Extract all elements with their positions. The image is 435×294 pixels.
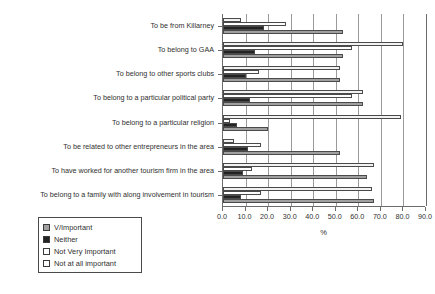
- bar-group: [223, 159, 425, 183]
- category-tick: [218, 50, 222, 51]
- legend-label: Not Very Important: [54, 247, 116, 256]
- category-tick: [218, 26, 222, 27]
- category-label: To belong to a particular religion: [112, 118, 214, 127]
- bar-group: [223, 183, 425, 207]
- legend-item[interactable]: Neither: [43, 233, 137, 245]
- bar-group: [223, 62, 425, 86]
- legend-swatch-not-at-all-important: [43, 260, 50, 267]
- bar: [223, 54, 343, 58]
- x-tick: [402, 207, 403, 211]
- legend-swatch-v-important: [43, 224, 50, 231]
- x-tick: [267, 207, 268, 211]
- bar-group: [223, 135, 425, 159]
- x-tick-label: 90.0: [410, 212, 435, 221]
- bar-group: [223, 111, 425, 135]
- x-axis-title: %: [222, 228, 425, 237]
- bar-chart: To be from KillarneyTo belong to GAATo b…: [0, 0, 435, 294]
- x-tick: [335, 207, 336, 211]
- category-tick: [218, 171, 222, 172]
- category-axis: To be from KillarneyTo belong to GAATo b…: [0, 14, 218, 207]
- legend-swatch-neither: [43, 236, 50, 243]
- legend-label: Not at all important: [54, 259, 116, 268]
- category-tick: [218, 98, 222, 99]
- bar: [223, 199, 374, 203]
- category-label: To be from Killarney: [150, 21, 214, 30]
- category-label: To belong to other sports clubs: [116, 69, 214, 78]
- bar-group: [223, 14, 425, 38]
- category-label: To belong to a particular political part…: [93, 93, 214, 102]
- bar: [223, 102, 363, 106]
- plot-area: [222, 14, 425, 207]
- x-tick: [357, 207, 358, 211]
- legend-item[interactable]: V/Important: [43, 221, 137, 233]
- bar: [223, 127, 268, 131]
- legend-item[interactable]: Not at all important: [43, 257, 137, 269]
- bar: [223, 115, 401, 119]
- category-tick: [218, 147, 222, 148]
- x-tick: [245, 207, 246, 211]
- category-label: To have worked for another tourism firm …: [51, 166, 214, 175]
- x-tick: [380, 207, 381, 211]
- bar-group: [223, 86, 425, 110]
- bar: [223, 78, 340, 82]
- category-label: To be related to other entrepreneurs in …: [63, 142, 214, 151]
- category-label: To belong to GAA: [158, 45, 214, 54]
- legend-label: Neither: [54, 235, 78, 244]
- legend-label: V/Important: [54, 223, 92, 232]
- legend-item[interactable]: Not Very Important: [43, 245, 137, 257]
- gridline: [426, 14, 427, 206]
- category-tick: [218, 195, 222, 196]
- legend-swatch-not-very-important: [43, 248, 50, 255]
- x-tick: [222, 207, 223, 211]
- x-tick: [312, 207, 313, 211]
- bar: [223, 151, 340, 155]
- category-tick: [218, 74, 222, 75]
- bar: [223, 175, 367, 179]
- category-tick: [218, 123, 222, 124]
- bar: [223, 30, 343, 34]
- bar-group: [223, 38, 425, 62]
- x-tick: [425, 207, 426, 211]
- x-tick: [290, 207, 291, 211]
- legend: V/Important Neither Not Very Important N…: [38, 217, 142, 273]
- category-label: To belong to a family with along involve…: [40, 190, 214, 199]
